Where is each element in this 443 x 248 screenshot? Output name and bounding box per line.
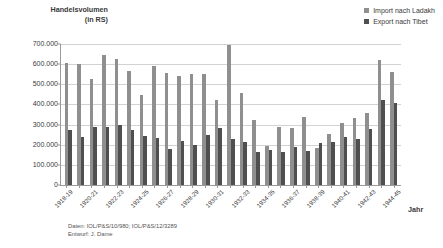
x-axis-tick-label: 1934-35: [255, 188, 276, 209]
x-axis-tick-label: 1926-27: [154, 188, 175, 209]
y-axis-tick-label: 200.000: [33, 141, 58, 149]
bar-export-nach-tibet: [281, 152, 285, 185]
legend-swatch-icon: [364, 19, 369, 24]
bar-group: [75, 44, 88, 185]
legend-item-label: Export nach Tibet: [373, 17, 427, 26]
bar-group: [375, 44, 388, 185]
x-axis-tick-label: 1938-39: [305, 188, 326, 209]
y-axis-tick-label: 100.000: [33, 161, 58, 169]
bar-group: [125, 44, 138, 185]
bar-group: [287, 44, 300, 185]
x-axis-tick-label: 1942-43: [355, 188, 376, 209]
bar-export-nach-tibet: [218, 128, 222, 185]
bar-export-nach-tibet: [381, 100, 385, 185]
bar-export-nach-tibet: [294, 147, 298, 185]
y-axis-title: Handelsvolumen (in RS): [4, 5, 108, 25]
bar-export-nach-tibet: [356, 139, 360, 185]
legend-swatch-icon: [364, 8, 369, 13]
x-axis-tick-label: 1922-23: [104, 188, 125, 209]
bar-group: [62, 44, 75, 185]
y-axis-tick-label: 600.000: [33, 60, 58, 68]
bar-group: [350, 44, 363, 185]
legend-item: Import nach Ladakh: [364, 6, 435, 15]
bar-export-nach-tibet: [256, 152, 260, 185]
bar-series-container: [61, 44, 401, 185]
bar-export-nach-tibet: [68, 130, 72, 185]
x-axis-tick-label: 1924-25: [129, 188, 150, 209]
bar-group: [337, 44, 350, 185]
x-axis-tick-label: 1930-31: [204, 188, 225, 209]
x-axis-tick-label: 1920-21: [78, 188, 99, 209]
bar-group: [162, 44, 175, 185]
source-note-data: Daten: IOL/P&S/10/980; IOL/P&S/12/3289: [68, 223, 177, 231]
bar-group: [325, 44, 338, 185]
bar-group: [112, 44, 125, 185]
bar-export-nach-tibet: [168, 149, 172, 185]
bar-export-nach-tibet: [369, 129, 373, 185]
bar-group: [262, 44, 275, 185]
bar-group: [300, 44, 313, 185]
x-axis-tick-labels: 1918-191920-211922-231924-251926-271928-…: [60, 188, 400, 218]
bar-group: [150, 44, 163, 185]
bar-export-nach-tibet: [231, 139, 235, 185]
bar-group: [250, 44, 263, 185]
bar-group: [137, 44, 150, 185]
x-axis-tick-label: 1936-37: [280, 188, 301, 209]
x-axis-tick-label: 1928-29: [179, 188, 200, 209]
x-axis-title: Jahr: [408, 205, 423, 214]
y-axis-tick-label: 400.000: [33, 100, 58, 108]
source-note-author: Entwurf: J. Dame: [68, 231, 177, 239]
bar-group: [225, 44, 238, 185]
bar-export-nach-tibet: [81, 137, 85, 185]
x-axis-tick-label: 1944-45: [381, 188, 402, 209]
y-axis-title-line2: (in RS): [4, 15, 108, 25]
y-axis-tick-label: 300.000: [33, 121, 58, 129]
bar-export-nach-tibet: [306, 151, 310, 185]
bar-group: [187, 44, 200, 185]
bar-export-nach-tibet: [344, 137, 348, 185]
bar-export-nach-tibet: [394, 103, 398, 185]
chart-legend: Import nach LadakhExport nach Tibet: [364, 6, 435, 26]
bar-export-nach-tibet: [269, 150, 273, 185]
plot-area: 700.000600.000500.000400.000300.000200.0…: [60, 44, 401, 186]
bar-export-nach-tibet: [243, 142, 247, 185]
y-axis-tick-label: 0: [54, 181, 58, 189]
bar-group: [275, 44, 288, 185]
y-axis-tick-label: 700.000: [33, 40, 58, 48]
bar-export-nach-tibet: [193, 145, 197, 185]
x-axis-tick-label: 1932-33: [230, 188, 251, 209]
bar-export-nach-tibet: [118, 125, 122, 185]
legend-item-label: Import nach Ladakh: [373, 6, 435, 15]
bar-export-nach-tibet: [131, 130, 135, 185]
x-axis-tick-label: 1918-19: [53, 188, 74, 209]
y-axis-tick-label: 500.000: [33, 80, 58, 88]
bar-export-nach-tibet: [93, 127, 97, 185]
bar-group: [200, 44, 213, 185]
bar-group: [312, 44, 325, 185]
bar-group: [87, 44, 100, 185]
bar-export-nach-tibet: [331, 142, 335, 186]
x-axis-tick-label: 1940-41: [330, 188, 351, 209]
bar-group: [212, 44, 225, 185]
bar-export-nach-tibet: [143, 136, 147, 185]
bar-group: [237, 44, 250, 185]
trade-volume-chart: Handelsvolumen (in RS) Import nach Ladak…: [0, 0, 443, 248]
bar-export-nach-tibet: [319, 143, 323, 185]
bar-group: [100, 44, 113, 185]
source-note: Daten: IOL/P&S/10/980; IOL/P&S/12/3289 E…: [68, 223, 177, 238]
bar-group: [387, 44, 400, 185]
legend-item: Export nach Tibet: [364, 17, 435, 26]
bar-group: [175, 44, 188, 185]
y-axis-title-line1: Handelsvolumen: [50, 5, 108, 14]
bar-export-nach-tibet: [206, 135, 210, 185]
bar-export-nach-tibet: [156, 138, 160, 185]
bar-group: [362, 44, 375, 185]
bar-export-nach-tibet: [106, 127, 110, 185]
bar-export-nach-tibet: [181, 141, 185, 185]
